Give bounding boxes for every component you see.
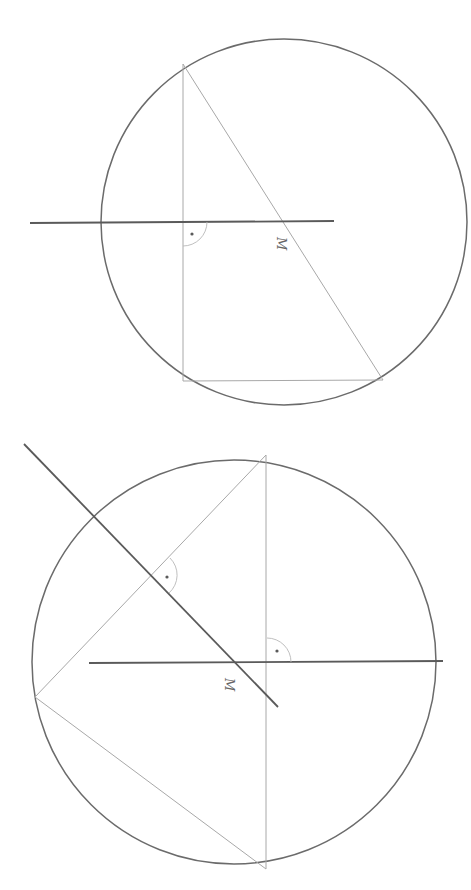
bottom-right-angle-arc-diagonal-icon	[169, 558, 177, 593]
top-right-angle-dot-icon	[190, 232, 193, 235]
bottom-construction: M	[24, 444, 443, 869]
top-perpendicular-bisector	[30, 221, 334, 223]
bottom-right-angle-dot-vertical-icon	[275, 649, 278, 652]
bottom-right-angle-dot-diagonal-icon	[165, 575, 168, 578]
bottom-diagonal-bisector	[24, 444, 278, 707]
bottom-center-label: M	[222, 677, 237, 692]
top-right-angle-arc-icon	[183, 222, 207, 246]
top-center-label: M	[274, 236, 289, 251]
bottom-right-angle-arc-vertical-icon	[267, 638, 291, 662]
top-triangle-side-bottom	[183, 380, 383, 381]
bottom-triangle-side-lower	[35, 697, 266, 869]
bottom-horizontal-bisector	[89, 661, 443, 663]
top-construction: M	[30, 39, 467, 405]
geometry-diagram: M M	[0, 0, 471, 890]
